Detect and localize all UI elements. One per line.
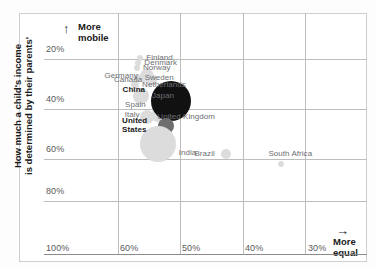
country-label-china: China [123, 85, 145, 94]
ytick-80: 80% [46, 186, 64, 196]
country-label-japan: Japan [152, 91, 174, 100]
ytick-60: 60% [46, 144, 64, 154]
ytick-20: 20% [46, 44, 64, 54]
country-label-norway: Norway [143, 63, 170, 72]
gridline-x-60 [118, 13, 119, 254]
country-label-south-africa: South Africa [268, 149, 312, 158]
gridline-y-20 [44, 59, 367, 60]
xtick-50: 50% [182, 243, 200, 253]
xtick-60: 60% [120, 243, 138, 253]
plot-area: FinlandDenmarkNorwaySwedenNetherlandsGer… [44, 13, 367, 254]
country-label-spain: Spain [125, 100, 146, 109]
country-label-united-states: UnitedStates [122, 116, 147, 134]
bubble-brazil[interactable] [221, 149, 231, 159]
bubble-south-africa[interactable] [278, 161, 284, 167]
country-label-netherlands: Netherlands [142, 80, 186, 89]
chart-screenshot: How much a child's income is determined … [0, 0, 376, 268]
gridline-x-40 [243, 13, 244, 254]
xtick-100: 100% [46, 243, 69, 253]
gridline-x-50 [180, 13, 181, 254]
gridline-y-80 [44, 201, 367, 202]
country-label-united-kingdom: United Kingdom [157, 112, 215, 121]
gridline-y-40 [44, 109, 367, 110]
ytick-40: 40% [46, 94, 64, 104]
xtick-40: 40% [245, 243, 263, 253]
y-axis-title: How much a child's income is determined … [12, 21, 34, 191]
y-axis-title-line2: is determined by their parents' [23, 21, 34, 191]
country-label-brazil: Brazil [194, 149, 214, 158]
gridline-y-60 [44, 159, 367, 160]
country-label-canada: Canada [114, 75, 142, 84]
x-axis-line [44, 254, 367, 255]
xtick-30: 30% [308, 243, 326, 253]
gridline-x-30 [305, 13, 306, 254]
y-axis-title-line1: How much a child's income [12, 21, 23, 191]
